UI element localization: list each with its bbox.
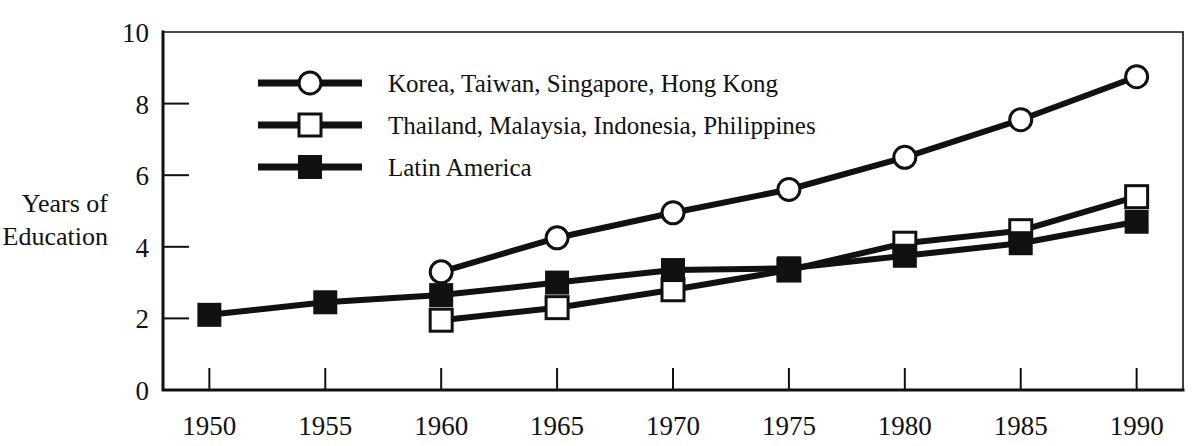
data-point-marker: [1010, 232, 1032, 254]
data-point-marker: [1126, 211, 1148, 233]
legend-item: Thailand, Malaysia, Indonesia, Philippin…: [258, 112, 816, 139]
data-point-marker: [314, 291, 336, 313]
chart-legend: Korea, Taiwan, Singapore, Hong KongThail…: [258, 70, 816, 181]
y-axis-label-line1: Years of: [22, 189, 109, 218]
x-tick-label: 1950: [182, 411, 236, 441]
series-layer: [198, 66, 1147, 331]
data-point-marker: [546, 272, 568, 294]
data-point-marker: [778, 257, 800, 279]
y-tick-label: 8: [136, 90, 150, 120]
legend-label: Latin America: [388, 154, 532, 181]
y-tick-label: 4: [136, 233, 150, 263]
line-chart: Years of Education 0246810 1950195519601…: [0, 0, 1204, 446]
legend-item: Korea, Taiwan, Singapore, Hong Kong: [258, 70, 779, 97]
x-tick-label: 1980: [878, 411, 932, 441]
x-axis-ticks: 195019551960196519701975198019851990: [182, 368, 1163, 441]
x-tick-label: 1955: [298, 411, 352, 441]
legend-marker-open-circle: [299, 72, 321, 94]
y-tick-label: 6: [136, 161, 150, 191]
legend-item: Latin America: [258, 154, 532, 181]
legend-marker-open-square: [299, 114, 321, 136]
data-point-marker: [1126, 186, 1148, 208]
series-markers: [198, 211, 1147, 326]
x-tick-label: 1965: [530, 411, 584, 441]
data-point-marker: [778, 179, 800, 201]
y-tick-label: 2: [136, 304, 150, 334]
x-tick-label: 1985: [994, 411, 1048, 441]
data-point-marker: [894, 146, 916, 168]
legend-label: Korea, Taiwan, Singapore, Hong Kong: [388, 70, 779, 97]
y-axis-ticks: 0246810: [122, 18, 189, 406]
series-markers: [430, 66, 1147, 283]
data-point-marker: [198, 304, 220, 326]
data-point-marker: [430, 261, 452, 283]
y-tick-label: 0: [136, 376, 150, 406]
x-tick-label: 1970: [646, 411, 700, 441]
x-tick-label: 1960: [414, 411, 468, 441]
data-point-marker: [1126, 66, 1148, 88]
y-axis-label-line2: Education: [3, 222, 108, 251]
legend-label: Thailand, Malaysia, Indonesia, Philippin…: [388, 112, 816, 139]
data-point-marker: [662, 202, 684, 224]
data-point-marker: [894, 245, 916, 267]
data-point-marker: [430, 284, 452, 306]
y-tick-label: 10: [122, 18, 149, 48]
x-tick-label: 1975: [762, 411, 816, 441]
data-point-marker: [430, 309, 452, 331]
x-tick-label: 1990: [1110, 411, 1164, 441]
data-point-marker: [1010, 109, 1032, 131]
data-point-marker: [546, 297, 568, 319]
legend-marker-filled-square: [299, 156, 321, 178]
chart-container: Years of Education 0246810 1950195519601…: [0, 0, 1204, 446]
data-point-marker: [662, 259, 684, 281]
data-point-marker: [546, 227, 568, 249]
